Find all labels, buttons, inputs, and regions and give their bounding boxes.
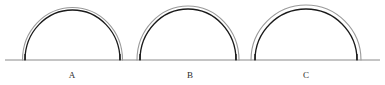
- arches-group: [23, 5, 362, 60]
- arch-c-inner-curve: [255, 9, 357, 60]
- arch-label-a: A: [62, 71, 82, 80]
- arch-a-inner-curve: [25, 10, 120, 60]
- arch-a-outer-curve: [23, 8, 123, 60]
- arch-b-inner-curve: [140, 9, 236, 60]
- arch-c-outer-curve: [251, 5, 361, 60]
- arch-label-b: B: [180, 71, 200, 80]
- arch-b-outer-curve: [137, 6, 239, 60]
- arch-diagram-figure: ABC: [0, 0, 385, 85]
- arch-c: [251, 5, 361, 60]
- arch-a: [23, 8, 123, 60]
- arch-b: [137, 6, 239, 60]
- arch-label-c: C: [296, 71, 316, 80]
